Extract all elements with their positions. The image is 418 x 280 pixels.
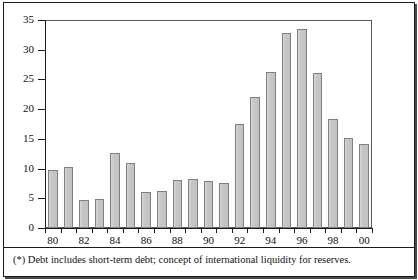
- x-tick-label: 00: [352, 234, 376, 246]
- x-tick-mark: [263, 228, 264, 233]
- y-tick-mark: [38, 50, 45, 51]
- figure-panel: 05101520253035 8082848688909294969800 (*…: [0, 0, 418, 280]
- x-tick-mark: [107, 228, 108, 233]
- bar-chart: 05101520253035 8082848688909294969800: [0, 0, 418, 248]
- x-tick-mark: [92, 228, 93, 233]
- y-tick-label: 25: [4, 73, 34, 84]
- y-axis-line: [45, 20, 46, 229]
- bar-00: [359, 144, 369, 228]
- x-tick-mark: [325, 228, 326, 233]
- x-tick-mark: [372, 228, 373, 233]
- y-tick-mark: [38, 20, 45, 21]
- y-tick-label: 15: [4, 133, 34, 144]
- y-tick-label: 20: [4, 103, 34, 114]
- x-tick-mark: [185, 228, 186, 233]
- x-tick-mark: [279, 228, 280, 233]
- x-tick-mark: [294, 228, 295, 233]
- bar-88: [173, 180, 183, 228]
- x-tick-label: 80: [41, 234, 65, 246]
- x-axis-line: [45, 228, 373, 229]
- x-tick-mark: [138, 228, 139, 233]
- y-tick-mark: [38, 198, 45, 199]
- x-tick-label: 88: [165, 234, 189, 246]
- y-tick-label: 30: [4, 44, 34, 55]
- x-tick-label: 94: [259, 234, 283, 246]
- x-tick-mark: [216, 228, 217, 233]
- x-tick-mark: [45, 228, 46, 233]
- bar-94: [266, 72, 276, 228]
- x-tick-label: 82: [72, 234, 96, 246]
- x-tick-mark: [123, 228, 124, 233]
- x-tick-mark: [154, 228, 155, 233]
- x-tick-label: 96: [290, 234, 314, 246]
- x-tick-label: 92: [228, 234, 252, 246]
- y-tick-label: 35: [4, 14, 34, 25]
- bar-82: [79, 200, 89, 228]
- x-tick-mark: [201, 228, 202, 233]
- x-tick-mark: [170, 228, 171, 233]
- bar-99: [344, 138, 354, 228]
- y-tick-mark: [38, 169, 45, 170]
- bar-97: [313, 73, 323, 228]
- bar-85: [126, 163, 136, 228]
- bar-93: [250, 97, 260, 228]
- x-tick-label: 98: [321, 234, 345, 246]
- bar-80: [48, 170, 58, 228]
- bar-84: [110, 153, 120, 228]
- y-tick-label: 10: [4, 163, 34, 174]
- x-tick-mark: [61, 228, 62, 233]
- y-tick-label: 0: [4, 222, 34, 233]
- x-tick-label: 84: [103, 234, 127, 246]
- bar-90: [204, 181, 214, 228]
- x-tick-mark: [76, 228, 77, 233]
- x-tick-label: 86: [134, 234, 158, 246]
- bar-91: [219, 183, 229, 228]
- bar-86: [141, 192, 151, 228]
- bar-87: [157, 191, 167, 228]
- bar-95: [282, 33, 292, 228]
- bar-83: [95, 199, 105, 228]
- x-tick-label: 90: [197, 234, 221, 246]
- x-tick-mark: [341, 228, 342, 233]
- x-tick-mark: [356, 228, 357, 233]
- x-tick-mark: [232, 228, 233, 233]
- y-tick-mark: [38, 79, 45, 80]
- footnote-caption: (*) Debt includes short-term debt; conce…: [13, 253, 405, 266]
- y-tick-label: 5: [4, 192, 34, 203]
- y-tick-mark: [38, 139, 45, 140]
- bar-96: [297, 29, 307, 228]
- x-tick-mark: [310, 228, 311, 233]
- caption-panel: (*) Debt includes short-term debt; conce…: [0, 248, 418, 280]
- bar-92: [235, 124, 245, 228]
- y-tick-mark: [38, 109, 45, 110]
- bar-89: [188, 179, 198, 228]
- bar-81: [64, 167, 74, 228]
- y-tick-mark: [38, 228, 45, 229]
- x-tick-mark: [247, 228, 248, 233]
- bar-98: [328, 119, 338, 228]
